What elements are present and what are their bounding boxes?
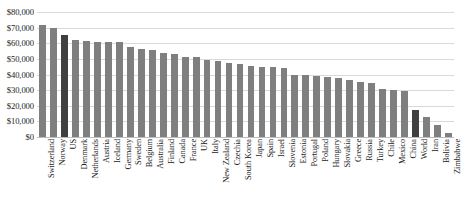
bar xyxy=(445,133,452,137)
bar xyxy=(248,66,255,137)
bar xyxy=(412,110,419,137)
bar xyxy=(226,63,233,137)
bar-series xyxy=(37,12,454,137)
x-axis-tick-label: Canada xyxy=(178,139,188,206)
bar xyxy=(138,49,145,137)
x-axis-tick-label: France xyxy=(189,139,199,206)
x-axis-tick-label: Mexico xyxy=(398,139,408,206)
bar xyxy=(302,75,309,137)
x-axis-tick-label: Bolivia xyxy=(442,139,452,206)
x-axis-tick-label: US xyxy=(69,139,79,206)
bar xyxy=(94,42,101,137)
y-axis-tick-label: $30,000 xyxy=(7,86,34,95)
y-axis-tick-label: $80,000 xyxy=(7,8,34,17)
y-axis-tick-label: $70,000 xyxy=(7,23,34,32)
bar xyxy=(171,54,178,137)
y-axis-tick-label: $40,000 xyxy=(7,70,34,79)
bar xyxy=(50,28,57,137)
x-axis-tick-label: Turkey xyxy=(376,139,386,206)
x-axis-tick-label: Denmark xyxy=(80,139,90,206)
x-axis-tick-label: Germany xyxy=(124,139,134,206)
x-axis-tick-label: China xyxy=(409,139,419,206)
bar xyxy=(291,75,298,138)
bar xyxy=(160,53,167,137)
x-axis-tick-label: Iceland xyxy=(113,139,123,206)
x-axis-tick-label: Belgium xyxy=(145,139,155,206)
x-axis-tick-label: Czechia xyxy=(233,139,243,206)
x-axis-tick-label: Norway xyxy=(58,139,68,206)
x-axis-tick-label: Switzerland xyxy=(47,139,57,206)
bar xyxy=(61,35,68,137)
x-axis-tick-label: Austria xyxy=(102,139,112,206)
bar xyxy=(379,89,386,137)
x-axis-tick-label: Greece xyxy=(354,139,364,206)
y-axis-tick-label: $20,000 xyxy=(7,101,34,110)
x-axis-tick-label: Slovenia xyxy=(288,139,298,206)
x-axis-tick-label: Australia xyxy=(156,139,166,206)
x-axis-tick-label: Zimbabwe xyxy=(453,139,463,206)
x-axis-tick-label: Slovakia xyxy=(343,139,353,206)
bar xyxy=(116,42,123,137)
x-axis-tick-label: Spain xyxy=(266,139,276,206)
bar xyxy=(368,83,375,137)
bar xyxy=(149,50,156,137)
x-axis-tick-label: Italy xyxy=(211,139,221,206)
bar xyxy=(434,125,441,138)
bar xyxy=(390,90,397,137)
bar xyxy=(127,47,134,137)
bar xyxy=(270,67,277,137)
x-axis-tick-label: Estonia xyxy=(299,139,309,206)
y-axis: $80,000$70,000$60,000$50,000$40,000$30,0… xyxy=(0,0,36,140)
bar xyxy=(423,117,430,137)
x-axis-tick-label: Hungary xyxy=(332,139,342,206)
plot-area xyxy=(37,12,454,137)
x-axis: SwitzerlandNorwayUSDenmarkNetherlandsAus… xyxy=(37,139,454,206)
x-axis-tick-label: UK xyxy=(200,139,210,206)
x-axis-tick-label: Portugal xyxy=(310,139,320,206)
bar xyxy=(346,80,353,137)
x-axis-tick-label: Russia xyxy=(365,139,375,206)
bar xyxy=(204,60,211,137)
bar xyxy=(335,78,342,137)
bar xyxy=(401,91,408,137)
y-axis-tick-label: $0 xyxy=(26,133,34,142)
x-axis-tick-label: Japan xyxy=(255,139,265,206)
bar xyxy=(83,41,90,137)
y-axis-tick-label: $50,000 xyxy=(7,54,34,63)
y-axis-tick-label: $10,000 xyxy=(7,117,34,126)
x-axis-tick-label: Chile xyxy=(387,139,397,206)
x-axis-tick-label: Israel xyxy=(277,139,287,206)
bar xyxy=(313,76,320,137)
axis-baseline xyxy=(37,137,454,138)
bar xyxy=(105,42,112,137)
bar xyxy=(237,64,244,137)
bar xyxy=(39,25,46,138)
x-axis-tick-label: Netherlands xyxy=(91,139,101,206)
x-axis-tick-label: Iran xyxy=(431,139,441,206)
bar xyxy=(215,61,222,137)
x-axis-tick-label: World xyxy=(420,139,430,206)
bar xyxy=(259,67,266,137)
bar xyxy=(281,68,288,137)
bar xyxy=(357,82,364,137)
x-axis-tick-label: New Zealand xyxy=(222,139,232,206)
x-axis-tick-label: Sweden xyxy=(134,139,144,206)
bar xyxy=(193,57,200,137)
x-axis-tick-label: Poland xyxy=(321,139,331,206)
bar xyxy=(182,57,189,137)
x-axis-tick-label: South Korea xyxy=(244,139,254,206)
bar xyxy=(72,40,79,137)
y-axis-tick-label: $60,000 xyxy=(7,39,34,48)
bar xyxy=(324,77,331,137)
x-axis-tick-label: Finland xyxy=(167,139,177,206)
